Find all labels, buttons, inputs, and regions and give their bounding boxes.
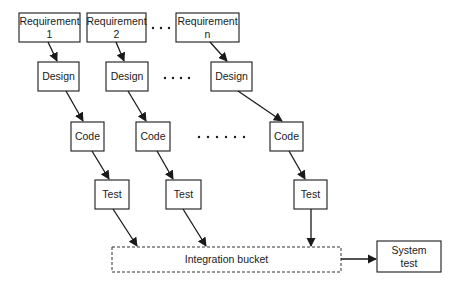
design-ellipsis bbox=[164, 77, 190, 79]
integration-bucket-node: Integration bucket bbox=[112, 247, 341, 272]
system-test-label-line2: test bbox=[401, 257, 418, 269]
edge-designn-coden bbox=[238, 91, 282, 121]
code-2-label: Code bbox=[140, 130, 165, 142]
requirement-2-number: 2 bbox=[114, 28, 120, 40]
test-n-node: Test bbox=[294, 180, 327, 209]
test-n-label: Test bbox=[301, 188, 320, 200]
design-1-label: Design bbox=[42, 70, 75, 82]
test-2-label: Test bbox=[174, 188, 193, 200]
edge-req2-design2 bbox=[116, 42, 124, 61]
code-n-node: Code bbox=[270, 122, 303, 151]
integration-bucket-label: Integration bucket bbox=[185, 253, 269, 265]
edge-test1-integration bbox=[113, 209, 137, 246]
system-test-label-line1: System bbox=[391, 244, 426, 256]
design-n-label: Design bbox=[215, 70, 248, 82]
test-1-node: Test bbox=[95, 180, 129, 209]
design-2-label: Design bbox=[111, 70, 144, 82]
design-n-node: Design bbox=[211, 62, 252, 91]
edge-design1-code1 bbox=[66, 91, 83, 121]
requirement-n-node: Requirement n bbox=[176, 13, 239, 42]
edge-req1-design1 bbox=[48, 42, 57, 61]
requirement-2-label: Requirement bbox=[86, 15, 146, 27]
edge-test2-integration bbox=[183, 209, 206, 246]
requirement-2-node: Requirement 2 bbox=[86, 13, 146, 42]
requirement-1-number: 1 bbox=[47, 28, 53, 40]
edge-reqn-designn bbox=[210, 42, 227, 61]
test-2-node: Test bbox=[166, 180, 201, 209]
requirement-n-label: Requirement bbox=[177, 15, 237, 27]
requirement-n-number: n bbox=[205, 28, 211, 40]
code-1-label: Code bbox=[75, 130, 100, 142]
code-1-node: Code bbox=[71, 122, 104, 151]
requirements-ellipsis bbox=[152, 27, 170, 29]
code-n-label: Code bbox=[274, 130, 299, 142]
edge-code1-test1 bbox=[92, 151, 109, 179]
design-2-node: Design bbox=[106, 62, 148, 91]
waterfall-increments-diagram: Requirement 1 Requirement 2 Requirement … bbox=[0, 0, 456, 291]
edge-coden-testn bbox=[289, 151, 305, 179]
design-1-node: Design bbox=[38, 62, 79, 91]
edge-code2-test2 bbox=[157, 151, 173, 179]
requirement-1-label: Requirement bbox=[19, 15, 79, 27]
code-2-node: Code bbox=[136, 122, 170, 151]
system-test-node: System test bbox=[377, 241, 441, 272]
code-ellipsis bbox=[198, 136, 245, 138]
test-1-label: Test bbox=[102, 188, 121, 200]
requirement-1-node: Requirement 1 bbox=[19, 13, 80, 42]
edge-design2-code2 bbox=[128, 91, 146, 121]
